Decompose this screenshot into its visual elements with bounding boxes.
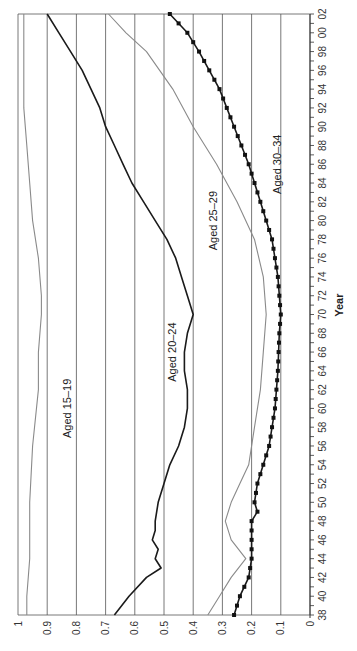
data-point-marker <box>267 444 271 448</box>
year-tick-label: 66 <box>317 346 328 358</box>
data-point-marker <box>277 284 281 288</box>
series-line-1 <box>24 14 42 615</box>
year-tick-label: 78 <box>317 233 328 245</box>
data-point-marker <box>255 510 259 514</box>
data-point-marker <box>207 68 211 72</box>
data-point-marker <box>273 406 277 410</box>
x-axis-title: Year <box>333 293 345 317</box>
data-point-marker <box>275 378 279 382</box>
year-tick-label: 46 <box>317 534 328 546</box>
value-tick-labels: 00.10.20.30.40.50.60.70.80.91 <box>13 621 316 635</box>
series-label: Aged 30–34 <box>271 135 283 194</box>
data-point-marker <box>267 228 271 232</box>
year-tick-label: 56 <box>317 440 328 452</box>
data-point-marker <box>232 125 236 129</box>
year-tick-label: 92 <box>317 102 328 114</box>
year-tick-label: 48 <box>317 515 328 527</box>
value-tick-label: 0.9 <box>42 621 53 635</box>
year-tick-label: 54 <box>317 459 328 471</box>
data-point-marker <box>277 350 281 354</box>
series-label: Aged 25–29 <box>207 191 219 250</box>
data-point-marker <box>212 78 216 82</box>
year-tick-label: 68 <box>317 327 328 339</box>
data-point-marker <box>277 331 281 335</box>
year-tick-label: 50 <box>317 496 328 508</box>
data-point-marker <box>278 322 282 326</box>
value-tick-label: 0.1 <box>275 621 286 635</box>
value-tick-label: 1 <box>13 621 24 627</box>
data-point-marker <box>255 482 259 486</box>
data-point-marker <box>272 416 276 420</box>
year-tick-label: 40 <box>317 590 328 602</box>
year-tick-label: 70 <box>317 309 328 321</box>
year-tick-label: 52 <box>317 478 328 490</box>
data-point-marker <box>250 547 254 551</box>
series-line-2 <box>47 14 193 615</box>
data-point-marker <box>269 435 273 439</box>
data-point-marker <box>261 463 265 467</box>
data-point-marker <box>250 528 254 532</box>
year-tick-label: 38 <box>317 609 328 621</box>
year-tick-label: 98 <box>317 46 328 58</box>
data-point-marker <box>254 491 258 495</box>
year-tick-label: 62 <box>317 384 328 396</box>
data-point-marker <box>270 425 274 429</box>
value-tick-label: 0.6 <box>129 621 140 635</box>
axes <box>18 14 314 618</box>
data-point-marker <box>247 575 251 579</box>
year-tick-labels: 3840424446485052545658606264666870727476… <box>317 8 328 621</box>
data-point-marker <box>276 275 280 279</box>
year-tick-label: 88 <box>317 139 328 151</box>
data-point-marker <box>279 313 283 317</box>
data-point-marker <box>276 359 280 363</box>
data-point-marker <box>250 519 254 523</box>
data-point-marker <box>242 585 246 589</box>
year-tick-label: 44 <box>317 553 328 565</box>
year-tick-label: 80 <box>317 215 328 227</box>
data-point-marker <box>238 594 242 598</box>
data-point-marker <box>217 87 221 91</box>
chart: 00.10.20.30.40.50.60.70.80.91 3840424446… <box>0 0 357 651</box>
data-point-marker <box>177 21 181 25</box>
data-point-marker <box>276 369 280 373</box>
year-tick-label: 76 <box>317 252 328 264</box>
year-tick-label: 74 <box>317 271 328 283</box>
data-point-marker <box>264 219 268 223</box>
data-point-marker <box>250 557 254 561</box>
data-point-marker <box>235 604 239 608</box>
year-tick-label: 64 <box>317 365 328 377</box>
data-point-marker <box>221 97 225 101</box>
data-point-marker <box>274 266 278 270</box>
data-point-marker <box>274 388 278 392</box>
value-tick-label: 0.2 <box>246 621 257 635</box>
data-point-marker <box>258 472 262 476</box>
data-point-marker <box>250 172 254 176</box>
data-point-marker <box>168 12 172 16</box>
data-point-marker <box>202 59 206 63</box>
year-tick-label: 02 <box>317 8 328 20</box>
series-label: Aged 20–24 <box>166 322 178 381</box>
year-tick-label: 86 <box>317 158 328 170</box>
series-line-4 <box>170 14 281 615</box>
data-point-marker <box>277 341 281 345</box>
series-label: Aged 15–19 <box>61 379 73 438</box>
data-point-marker <box>253 500 257 504</box>
data-point-marker <box>258 200 262 204</box>
data-point-marker <box>273 256 277 260</box>
data-point-marker <box>247 162 251 166</box>
data-point-marker <box>264 453 268 457</box>
value-tick-label: 0.3 <box>217 621 228 635</box>
year-tick-label: 90 <box>317 121 328 133</box>
data-point-marker <box>261 209 265 213</box>
data-point-marker <box>248 566 252 570</box>
data-point-marker <box>253 181 257 185</box>
data-point-marker <box>243 153 247 157</box>
data-point-marker <box>191 40 195 44</box>
data-point-marker <box>250 538 254 542</box>
year-tick-label: 96 <box>317 64 328 76</box>
value-tick-label: 0.8 <box>71 621 82 635</box>
value-tick-label: 0.4 <box>188 621 199 635</box>
year-tick-label: 84 <box>317 177 328 189</box>
data-point-marker <box>232 613 236 617</box>
series-lines <box>24 12 283 617</box>
